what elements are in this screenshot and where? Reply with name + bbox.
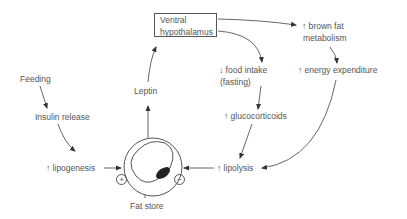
insulin-release-label: Insulin release bbox=[35, 112, 90, 123]
energy-expenditure-label: ↑ energy expenditure bbox=[298, 65, 377, 76]
leptin-label: Leptin bbox=[134, 86, 157, 97]
arrow-foodintake-glucocorticoids bbox=[258, 86, 261, 109]
brown-fat-label-line2: metabolism bbox=[303, 33, 346, 44]
hypothalamus-line1: Ventral bbox=[160, 14, 216, 26]
hypothalamus-line2: hypothalamus bbox=[160, 26, 216, 38]
arrow-insulin-lipogenesis bbox=[58, 124, 75, 151]
lipogenesis-label: ↑ lipogenesis bbox=[46, 163, 95, 174]
glucocorticoids-label: ↑ glucocorticoids bbox=[224, 111, 287, 122]
fat-cell-icon bbox=[124, 138, 182, 196]
arrow-energy-lipolysis bbox=[262, 80, 336, 168]
arrow-feeding-insulin bbox=[40, 86, 47, 108]
food-intake-label-line1: ↓ food intake bbox=[219, 65, 267, 76]
feeding-label: Feeding bbox=[20, 74, 51, 85]
arrow-hypothalamus-brownfat bbox=[218, 19, 296, 25]
lipolysis-label: ↑ lipolysis bbox=[217, 163, 253, 174]
food-intake-label-line2: (fasting) bbox=[220, 77, 251, 88]
arrow-brownfat-energy bbox=[330, 47, 337, 63]
fat-store-label: Fat store bbox=[130, 201, 164, 212]
arrow-hypothalamus-foodintake bbox=[218, 31, 262, 62]
ventral-hypothalamus-box: Ventral hypothalamus bbox=[154, 13, 217, 37]
plus-sign-icon: + bbox=[116, 174, 127, 185]
brown-fat-label-line1: ↑ brown fat bbox=[302, 21, 344, 32]
arrow-glucocorticoids-lipolysis bbox=[240, 124, 252, 158]
arrow-leptin-hypothalamus bbox=[148, 47, 156, 82]
minus-sign-icon: − bbox=[174, 174, 185, 185]
